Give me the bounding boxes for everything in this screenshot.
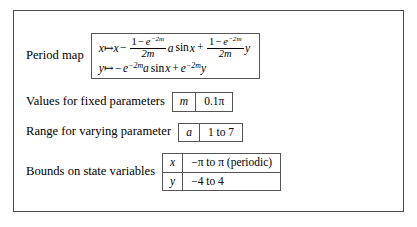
period-map-box: x ↦ x−1−e−2m2masinx+1−e−2m2my y ↦ −e−2ma… [91, 33, 260, 79]
state-variable-symbol-y: y [163, 172, 183, 191]
fraction-two-numerator: 1−e−2m [207, 37, 244, 49]
exponent-value: 2m [191, 61, 201, 70]
operator-minus: − [119, 41, 129, 53]
varying-parameter-label: Range for varying parameter [26, 125, 178, 139]
fixed-parameters-row: Values for fixed parameters m 0.1π [14, 92, 405, 112]
varying-parameter-row: Range for varying parameter a 1 to 7 [14, 123, 405, 143]
period-map-table: x ↦ x−1−e−2m2masinx+1−e−2m2my y ↦ −e−2ma… [99, 37, 250, 75]
table-row: a 1 to 7 [179, 123, 243, 142]
operator-plus: + [195, 41, 206, 53]
varying-parameter-value: 1 to 7 [199, 123, 242, 142]
sin-function: sin [173, 41, 189, 53]
period-map-row: Period map x ↦ x−1−e−2m2masinx+1−e−2m2my… [14, 33, 405, 79]
state-bounds-table: x −π to π (periodic) y −4 to 4 [162, 153, 281, 191]
period-map-label: Period map [26, 49, 91, 63]
fraction-one-denominator: 2m [130, 49, 167, 60]
figure-content: Period map x ↦ x−1−e−2m2masinx+1−e−2m2my… [14, 11, 405, 213]
fraction-two: 1−e−2m2m [207, 37, 244, 60]
term-x: x [113, 41, 118, 53]
term-y: y [201, 62, 206, 74]
state-variable-bound-y: −4 to 4 [183, 172, 281, 191]
numerator-exponent: −2m [228, 35, 242, 43]
exponent-value: 2m [155, 35, 164, 43]
sin-function: sin [149, 62, 165, 74]
table-row: x −π to π (periodic) [163, 154, 281, 173]
fraction-one: 1−e−2m2m [130, 37, 167, 60]
table-row: m 0.1π [172, 93, 233, 112]
numerator-minus: − [214, 36, 223, 47]
varying-parameter-symbol: a [179, 123, 200, 142]
operator-plus: + [170, 62, 181, 74]
state-bounds-row: Bounds on state variables x −π to π (per… [14, 153, 405, 191]
exponent-value: 2m [233, 35, 242, 43]
state-variable-symbol-x: x [163, 154, 183, 173]
fixed-parameter-value: 0.1π [196, 93, 233, 112]
fraction-two-denominator: 2m [207, 49, 244, 60]
exponential-one-exponent: −2m [128, 61, 143, 70]
table-row: y −4 to 4 [163, 172, 281, 191]
exponential-two-exponent: −2m [186, 61, 201, 70]
state-variable-bound-x: −π to π (periodic) [183, 154, 281, 173]
term-y: y [245, 41, 250, 53]
fixed-parameter-symbol: m [172, 93, 195, 112]
period-map-line1-expression: x−1−e−2m2masinx+1−e−2m2my [113, 37, 250, 61]
numerator-minus: − [137, 36, 146, 47]
figure-frame: Period map x ↦ x−1−e−2m2masinx+1−e−2m2my… [13, 10, 404, 212]
fraction-one-numerator: 1−e−2m [130, 37, 167, 49]
exponent-value: 2m [133, 61, 143, 70]
state-bounds-label: Bounds on state variables [26, 165, 162, 179]
fixed-parameters-label: Values for fixed parameters [26, 95, 172, 109]
fixed-parameters-table: m 0.1π [172, 92, 234, 112]
numerator-exponent: −2m [150, 35, 164, 43]
leading-minus: − [113, 62, 123, 74]
coefficient-a: a [143, 62, 149, 74]
period-map-line-2: y ↦ −e−2masinx+e−2my [99, 61, 250, 75]
period-map-line-1: x ↦ x−1−e−2m2masinx+1−e−2m2my [99, 37, 250, 61]
period-map-line2-expression: −e−2masinx+e−2my [113, 61, 250, 75]
mapsto-icon: ↦ [104, 61, 114, 75]
varying-parameter-table: a 1 to 7 [178, 123, 243, 143]
